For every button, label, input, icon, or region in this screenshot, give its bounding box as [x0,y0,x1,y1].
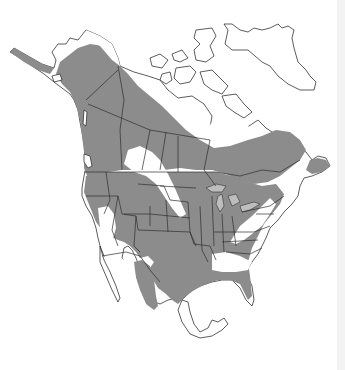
arctic-island [222,94,252,118]
greenland-outline [224,24,316,90]
range-alaska-peninsula [10,48,54,74]
north-america-map [0,0,345,370]
range-us [84,172,284,304]
arctic-island [200,70,228,94]
arctic-island [172,50,188,62]
arctic-island [194,28,216,62]
range-map [0,0,345,370]
haida-gwaii [83,110,87,126]
arctic-island [174,66,196,84]
arctic-island [150,54,168,68]
